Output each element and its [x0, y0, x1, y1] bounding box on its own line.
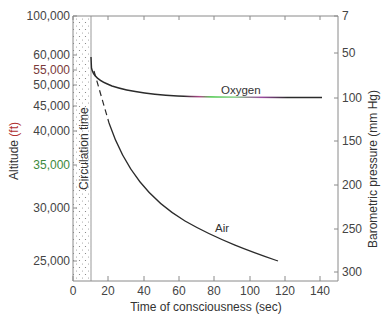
- right-tick-label: 100: [342, 91, 362, 105]
- x-tick-label: 60: [172, 284, 186, 298]
- left-axis-title-main: Altitude: [7, 137, 21, 180]
- left-axis-ticks: 100,00060,00055,00050,00045,00040,00035,…: [27, 9, 77, 268]
- x-axis-ticks: 020406080100120140: [70, 16, 331, 298]
- x-tick-label: 140: [310, 284, 330, 298]
- left-tick-label: 25,000: [33, 254, 70, 268]
- air-label: Air: [215, 222, 229, 234]
- right-tick-label: 7: [342, 9, 349, 23]
- left-tick-label: 100,000: [27, 9, 71, 23]
- x-tick-label: 80: [207, 284, 221, 298]
- left-tick-label: 50,000: [33, 78, 70, 92]
- left-tick-label: 30,000: [33, 201, 70, 215]
- right-tick-label: 200: [342, 178, 362, 192]
- air-curve-dashed: [94, 71, 109, 123]
- air-curve: [109, 123, 278, 261]
- left-tick-label: 60,000: [33, 48, 70, 62]
- right-tick-label: 150: [342, 134, 362, 148]
- left-tick-label: 35,000: [33, 158, 70, 172]
- x-tick-label: 120: [275, 284, 295, 298]
- left-tick-label: 40,000: [33, 124, 70, 138]
- x-tick-label: 40: [137, 284, 151, 298]
- x-axis-title: Time of consciousness (sec): [130, 300, 282, 314]
- left-tick-label: 45,000: [33, 99, 70, 113]
- x-tick-label: 20: [101, 284, 115, 298]
- oxygen-label: Oxygen: [221, 84, 261, 96]
- circulation-time-band: Circulation time: [73, 16, 91, 281]
- x-tick-label: 0: [70, 284, 77, 298]
- right-tick-label: 300: [342, 265, 362, 279]
- left-axis-title-unit: (ft): [7, 122, 21, 137]
- right-axis-title: Barometric pressure (mm Hg): [366, 90, 380, 248]
- x-tick-label: 100: [240, 284, 260, 298]
- left-tick-label: 55,000: [33, 63, 70, 77]
- chart: Circulation time 020406080100120140 100,…: [0, 0, 386, 324]
- circulation-time-label: Circulation time: [77, 107, 91, 190]
- oxygen-curve: [91, 57, 322, 98]
- left-axis-title: Altitude (ft): [7, 122, 21, 180]
- right-tick-label: 250: [342, 222, 362, 236]
- right-tick-label: 50: [342, 46, 356, 60]
- plot-frame: [73, 16, 338, 281]
